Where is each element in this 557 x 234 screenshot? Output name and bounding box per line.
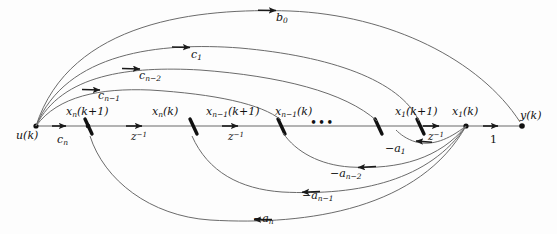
delay-label-3: z−1: [428, 131, 444, 142]
gain-label-b0: b0: [276, 12, 288, 24]
node-label-xn-k: xn(k): [152, 106, 178, 118]
node-label-xn-k-plus-1: xn(k+1): [66, 106, 109, 118]
ellipsis-continuation: •••: [310, 116, 334, 130]
node-label-y: y(k): [520, 110, 541, 121]
gain-label-output-one: 1: [490, 134, 497, 145]
gain-label-cn-minus-1: cn−1: [98, 90, 120, 102]
node-dot-xn-kp1: [86, 124, 91, 129]
node-label-xn-minus-1-k: xn−1(k): [275, 106, 312, 118]
node-label-x1-k: x1(k): [452, 106, 478, 118]
gain-label-minus-an-minus-2: −an−2: [330, 168, 362, 180]
gain-label-minus-an: −an: [253, 213, 274, 225]
gain-label-cn: cn: [57, 134, 68, 146]
gain-label-minus-an-minus-1: −an−1: [302, 190, 334, 202]
gain-label-c1: c1: [191, 49, 202, 61]
delay-label-1: z−1: [131, 131, 147, 142]
feedforward-arrowheads: [82, 10, 276, 90]
signal-flow-graph-figure: u(k) xn(k+1) xn(k) xn−1(k+1) xn−1(k) x1(…: [0, 0, 557, 234]
node-label-x1-k-plus-1: x1(k+1): [395, 106, 437, 118]
delay-label-2: z−1: [228, 131, 244, 142]
node-dot-y: [519, 123, 525, 129]
gain-label-cn-minus-2: cn−2: [139, 70, 161, 82]
gain-label-minus-a1: −a1: [385, 143, 406, 155]
arrowhead-cn-2: [122, 68, 140, 69]
node-label-u: u(k): [16, 130, 38, 141]
node-label-xn-minus-1-k-plus-1: xn−1(k+1): [206, 106, 260, 118]
